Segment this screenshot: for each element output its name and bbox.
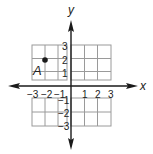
y-axis-label: y — [67, 3, 75, 17]
x-tick-1: 1 — [82, 89, 88, 100]
y-tick-2: 2 — [62, 55, 68, 66]
y-tick-neg3: −3 — [58, 121, 70, 132]
y-tick-neg1: −1 — [58, 95, 70, 106]
point-a-dot-icon — [42, 57, 48, 63]
x-axis-label: x — [139, 79, 147, 93]
x-tick-neg2: −2 — [41, 89, 53, 100]
x-tick-neg3: −3 — [27, 89, 39, 100]
coordinate-plane: x y −3 −2 −1 1 2 3 3 2 1 −1 −2 −3 A — [0, 0, 153, 154]
x-tick-2: 2 — [95, 89, 101, 100]
y-tick-1: 1 — [62, 68, 68, 79]
point-a-label: A — [32, 63, 42, 78]
x-tick-3: 3 — [108, 89, 114, 100]
y-tick-neg2: −2 — [58, 108, 70, 119]
y-tick-3: 3 — [62, 41, 68, 52]
